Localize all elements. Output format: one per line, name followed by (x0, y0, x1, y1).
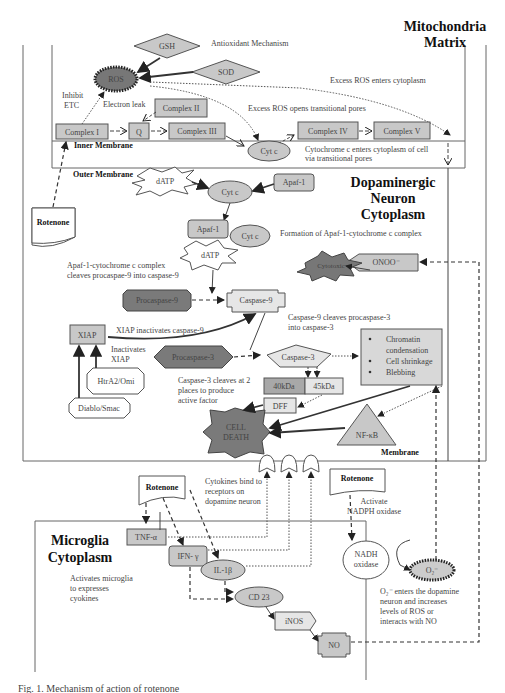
casp3-cleave-text-1: Caspase-3 cleaves at 2 (178, 376, 250, 385)
datp-2-label: dATP (201, 251, 220, 260)
gsh-label: GSH (159, 42, 175, 51)
cytc-enters-text-2: via transitional pores (305, 154, 372, 163)
casp3-cleave-text-3: active factor (178, 396, 218, 405)
o2-label: O₂⁻ (426, 566, 439, 575)
outer-membrane-label: Outer Membrane (73, 170, 134, 179)
activate-text-1: Activate (360, 497, 388, 506)
effect-chromatin-1: Chromatin (386, 335, 420, 344)
receptor-3 (303, 455, 319, 472)
cytotoxic-label: Cytotoxic (317, 262, 345, 270)
onoo-label: ONOO⁻ (372, 258, 399, 267)
tnfa-label: TNF-α (135, 533, 158, 542)
complex-3-label: Complex III (177, 127, 217, 136)
cytokines-text-3: dopamine neuron (205, 497, 261, 506)
antioxidant-text: Antioxidant Mechanism (211, 39, 289, 48)
inner-membrane-label: Inner Membrane (74, 141, 133, 150)
excess-ros-cyto-text: Excess ROS enters cytoplasm (330, 76, 427, 85)
ros-star: ROS (95, 67, 137, 91)
electron-leak-text: Electron leak (103, 100, 145, 109)
ifng-label: IFN- γ (177, 552, 199, 561)
excess-ros-pores-text: Excess ROS opens transitional pores (248, 104, 366, 113)
q-label: Q (136, 128, 142, 137)
xiap-label: XIAP (78, 331, 97, 340)
activates-mg-text-3: cyokines (70, 594, 98, 603)
complex-4-label: Complex IV (308, 127, 348, 136)
apaf-cleave-text-2: cleaves procaspae-9 into caspase-9 (67, 271, 179, 280)
o2-enters-text-4: interacts with NO (380, 617, 437, 626)
sod-label: SOD (218, 68, 234, 77)
cytc-mito-label: Cyt c (260, 147, 278, 156)
cd23-label: CD 23 (248, 593, 269, 602)
inhibit-text-2: ETC (64, 101, 79, 110)
activates-mg-text-1: Activates microglia (70, 574, 133, 583)
casp9-cleave-text-2: into caspase-3 (288, 323, 334, 332)
neuron-title-2: Neuron (371, 191, 416, 206)
rotenone-2-label: Rotenone (146, 483, 179, 492)
kda45-label: 45kDa (313, 382, 335, 391)
microglia-title-2: Cytoplasm (48, 550, 113, 565)
cytc-2-label: Cyt c (241, 232, 259, 241)
dff-label: DFF (273, 402, 288, 411)
mito-title-2: Matrix (424, 35, 466, 50)
activate-text-2: NADPH oxidase (347, 507, 401, 516)
apaf-cleave-text-1: Apaf-1-cytochrome c complex (67, 261, 165, 270)
nadh-label-1: NADH (354, 550, 377, 559)
effect-shrinkage: Cell shrinkage (386, 357, 433, 366)
complex-2-label: Complex II (163, 104, 200, 113)
microglia-title-1: Microglia (51, 533, 109, 548)
effect-blebbing: Blebbing (386, 368, 415, 377)
cytokines-text-2: receptors on (205, 487, 244, 496)
figure-caption: Fig. 1. Mechanism of action of rotenone (18, 683, 180, 693)
receptor-1 (259, 455, 275, 472)
o2-enters-text-3: levels of ROS or (380, 607, 434, 616)
cytc-enters-text-1: Cytochrome c enters cytoplasm of cell (305, 145, 429, 154)
kda40-label: 40kDa (273, 382, 295, 391)
inhibit-text-1: Inhibit (62, 91, 84, 100)
cell-death-label-2: DEATH (223, 433, 249, 442)
casp9-cleave-text-1: Caspase-9 cleaves procaspase-3 (288, 313, 390, 322)
cytokines-text-1: Cytokines bind to (205, 477, 262, 486)
datp-1-label: dATP (156, 177, 175, 186)
ros-label: ROS (108, 75, 124, 84)
o2-enters-text-2: neuron and increases (380, 597, 447, 606)
complex-1-label: Complex I (65, 128, 99, 137)
xiap-inactivates-text: XIAP inactivates caspase-9 (116, 326, 204, 335)
membrane-label: Membrane (381, 448, 419, 457)
complex-5-label: Complex V (384, 127, 421, 136)
o2-enters-text-1: O₂⁻ enters the dopamine (380, 587, 459, 596)
apaf1-b-label: Apaf-1 (197, 225, 220, 234)
nfkb-label: NF-κB (356, 431, 378, 440)
procaspase-3-label: Procaspase-3 (172, 353, 214, 362)
inos-label: iNOS (285, 617, 303, 626)
inactivates-xiap-text-1: Inactivates (111, 345, 146, 354)
neuron-title-3: Cytoplasm (361, 207, 426, 222)
procaspase-9-label: Procaspase-9 (136, 296, 178, 305)
inactivates-xiap-text-2: XIAP (111, 355, 130, 364)
mito-title-1: Mitochondria (404, 19, 486, 34)
htra2-label: HtrA2/Omi (98, 377, 136, 386)
rotenone-1-label: Rotenone (37, 218, 70, 227)
cytc-1-label: Cyt c (221, 188, 239, 197)
apaf1-a-label: Apaf-1 (283, 178, 306, 187)
il1b-label: IL-1β (214, 566, 232, 575)
caspase-3-label: Caspase-3 (282, 353, 315, 362)
formation-text: Formation of Apaf-1-cytochrome c complex (280, 229, 422, 238)
cell-death-label-1: CELL (226, 423, 246, 432)
casp3-cleave-text-2: places to produce (178, 386, 234, 395)
activates-mg-text-2: to expresses (70, 584, 109, 593)
no-label: NO (328, 641, 340, 650)
receptor-2 (281, 455, 297, 472)
nadh-label-2: oxidase (354, 560, 379, 569)
effect-chromatin-2: condensation (386, 346, 428, 355)
caspase-9-label: Caspase-9 (240, 296, 273, 305)
rotenone-mechanism-diagram: Mitochondria Matrix Dopaminergic Neuron … (0, 0, 505, 693)
rotenone-3-label: Rotenone (341, 474, 374, 483)
diablo-label: Diablo/Smac (78, 404, 120, 413)
neuron-title-1: Dopaminergic (351, 175, 436, 190)
